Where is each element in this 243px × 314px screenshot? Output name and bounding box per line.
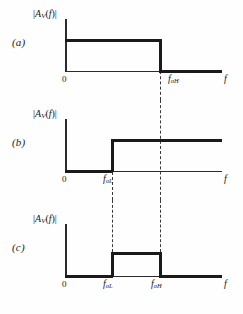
panel-b-trace-rising-edge (111, 139, 114, 172)
panel-a-tick-foh: foH (168, 73, 179, 84)
panel-c-trace-falling-edge (159, 252, 162, 277)
panel-b-highpass: (b) |AV(f)| 0 foL f (0, 100, 243, 205)
panel-c-trace-upper-stopband (159, 275, 222, 278)
panel-b-tick-fol: foL (103, 173, 113, 184)
panel-c-yaxis-title: |AV(f)| (33, 213, 57, 225)
panel-b-xaxis-title: f (224, 173, 227, 184)
panel-c-bandpass: (c) |AV(f)| 0 foL foH f (0, 205, 243, 310)
panel-c-yaxis (65, 224, 67, 277)
panel-c-tick-zero: 0 (62, 279, 67, 289)
panel-b-yaxis (65, 119, 67, 172)
panel-c-trace-rising-edge (111, 252, 114, 277)
panel-c-trace-passband (111, 252, 161, 255)
panel-a-trace-passband (65, 39, 161, 42)
panel-a-lowpass: (a) |AV(f)| 0 foH f (0, 0, 243, 105)
panel-c-tick-foh: foH (151, 278, 162, 289)
panel-b-tick-zero: 0 (62, 174, 67, 184)
panel-a-tick-zero: 0 (62, 74, 67, 84)
panel-b-trace-passband (111, 139, 222, 142)
panel-a-yaxis (65, 19, 67, 72)
panel-c-tick-fol: foL (103, 278, 113, 289)
figure-amplitude-responses: (a) |AV(f)| 0 foH f (b) |AV(f)| (0, 0, 243, 314)
panel-a-xaxis-title: f (224, 73, 227, 84)
panel-b-yaxis-title: |AV(f)| (33, 108, 57, 120)
panel-a-yaxis-title: |AV(f)| (33, 8, 57, 20)
panel-c-label: (c) (12, 241, 25, 253)
panel-b-label: (b) (12, 136, 25, 148)
panel-a-trace-falling-edge (159, 39, 162, 72)
panel-a-label: (a) (12, 36, 25, 48)
panel-c-xaxis-title: f (224, 278, 227, 289)
